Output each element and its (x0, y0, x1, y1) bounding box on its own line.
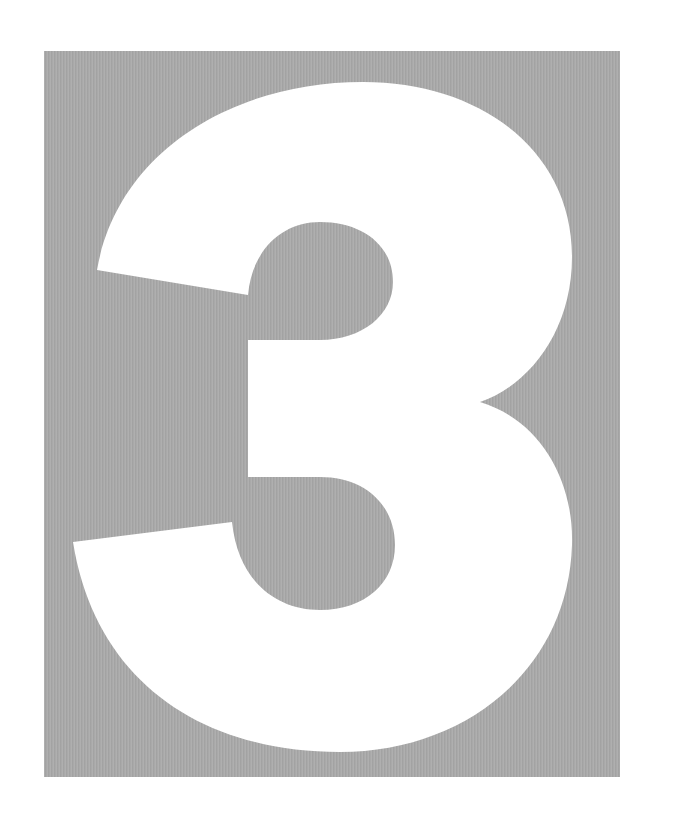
numeral-card: 3 (0, 0, 675, 828)
numeral-three-glyph (0, 0, 675, 828)
